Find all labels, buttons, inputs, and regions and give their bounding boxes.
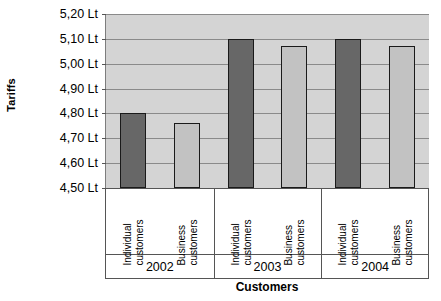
group-separator bbox=[214, 255, 215, 278]
x-axis-category-label: Businesscustomers bbox=[268, 189, 322, 254]
gridline bbox=[106, 113, 429, 114]
x-axis-group-label: 2003 bbox=[214, 255, 322, 278]
y-axis-tick-label: 5,20 Lt bbox=[60, 7, 98, 21]
y-axis-tick-label: 4,80 Lt bbox=[60, 106, 98, 120]
gridline bbox=[106, 64, 429, 65]
group-separator bbox=[321, 255, 322, 278]
gridline bbox=[106, 89, 429, 90]
bar bbox=[174, 123, 200, 188]
y-axis-title: Tariffs bbox=[0, 0, 22, 190]
gridline bbox=[106, 39, 429, 40]
gridline bbox=[106, 138, 429, 139]
bar bbox=[335, 39, 361, 188]
y-axis-tick-label: 5,10 Lt bbox=[60, 32, 98, 46]
bar-chart: Tariffs 5,20 Lt5,10 Lt5,00 Lt4,90 Lt4,80… bbox=[0, 0, 441, 301]
y-axis-tickmark bbox=[102, 89, 106, 90]
y-axis-tick-label: 5,00 Lt bbox=[60, 57, 98, 71]
x-axis-category-label: Individualcustomers bbox=[214, 189, 268, 254]
y-axis-tickmark bbox=[102, 138, 106, 139]
y-axis-tickmark bbox=[102, 14, 106, 15]
bar bbox=[120, 113, 146, 188]
x-axis-title: Customers bbox=[105, 280, 429, 294]
y-axis-tick-label: 4,60 Lt bbox=[60, 156, 98, 170]
group-separator bbox=[214, 189, 215, 254]
y-axis-tickmark bbox=[102, 64, 106, 65]
x-axis-category-labels: IndividualcustomersBusinesscustomersIndi… bbox=[105, 189, 429, 255]
bar bbox=[389, 46, 415, 188]
y-axis-tick-label: 4,70 Lt bbox=[60, 131, 98, 145]
x-axis-category-label: Businesscustomers bbox=[375, 189, 429, 254]
x-axis-group-labels: 200220032004 bbox=[105, 255, 429, 279]
plot-area bbox=[105, 14, 429, 189]
x-axis-category-label: Individualcustomers bbox=[321, 189, 375, 254]
x-axis-category-label: Individualcustomers bbox=[106, 189, 160, 254]
y-axis-tickmark bbox=[102, 163, 106, 164]
x-axis-group-label: 2002 bbox=[106, 255, 214, 278]
y-axis-tick-label: 4,90 Lt bbox=[60, 82, 98, 96]
y-axis-tick-labels: 5,20 Lt5,10 Lt5,00 Lt4,90 Lt4,80 Lt4,70 … bbox=[24, 14, 102, 188]
group-separator bbox=[321, 189, 322, 254]
gridline bbox=[106, 163, 429, 164]
bar bbox=[281, 46, 307, 188]
y-axis-title-label: Tariffs bbox=[5, 78, 17, 112]
y-axis-tickmark bbox=[102, 39, 106, 40]
y-axis-tickmark bbox=[102, 113, 106, 114]
bar bbox=[228, 39, 254, 188]
gridline bbox=[106, 14, 429, 15]
y-axis-tick-label: 4,50 Lt bbox=[60, 181, 98, 195]
x-axis-category-label: Businesscustomers bbox=[160, 189, 214, 254]
x-axis-group-label: 2004 bbox=[321, 255, 429, 278]
